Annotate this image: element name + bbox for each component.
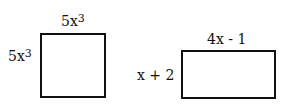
rectangle-top-text: 4x - 1 xyxy=(207,31,246,47)
square-side-base: 5x xyxy=(8,48,25,64)
square-side-exp: 3 xyxy=(25,47,32,60)
square-top-exp: 3 xyxy=(78,12,85,25)
rectangle-side-label: x + 2 xyxy=(137,68,174,82)
rectangle-top-label: 4x - 1 xyxy=(207,32,246,46)
square-top-label: 5x3 xyxy=(61,14,85,28)
rectangle-shape xyxy=(181,50,276,99)
square-shape xyxy=(40,33,106,98)
square-top-base: 5x xyxy=(61,13,78,29)
square-side-label: 5x3 xyxy=(8,49,32,63)
rectangle-side-text: x + 2 xyxy=(137,67,174,83)
